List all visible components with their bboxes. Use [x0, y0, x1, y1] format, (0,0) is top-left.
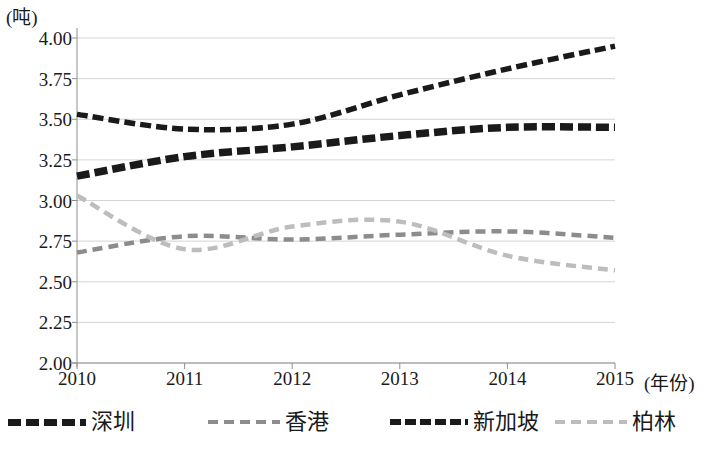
legend-item-1[interactable]: 深圳 — [8, 404, 135, 440]
legend-label: 深圳 — [91, 411, 135, 433]
x-tick-label: 2011 — [166, 368, 203, 390]
x-tick-label: 2013 — [381, 368, 419, 390]
series-line-2 — [77, 46, 615, 130]
legend-line-swatch — [555, 415, 627, 429]
x-axis-title: (年份) — [644, 368, 695, 395]
data-series — [77, 46, 615, 270]
series-line-3 — [77, 196, 615, 271]
legend-label: 柏林 — [632, 411, 676, 433]
x-tick-label: 2015 — [596, 368, 634, 390]
legend-label: 香港 — [285, 411, 329, 433]
legend-line-swatch — [390, 415, 468, 429]
gridlines — [77, 38, 615, 363]
x-tick-label: 2012 — [273, 368, 311, 390]
plot-area — [0, 0, 710, 466]
legend-item-2[interactable]: 香港 — [208, 404, 329, 440]
x-tick-label: 2014 — [488, 368, 526, 390]
chart-legend: 深圳香港新加坡柏林 — [0, 404, 710, 446]
series-line-0 — [77, 127, 615, 176]
legend-label: 新加坡 — [473, 411, 539, 433]
series-line-1 — [77, 231, 615, 252]
x-tick-label: 2010 — [58, 368, 96, 390]
legend-line-swatch — [208, 415, 280, 429]
legend-item-4[interactable]: 柏林 — [555, 404, 676, 440]
axis-tickmarks — [72, 38, 615, 369]
legend-line-swatch — [8, 415, 86, 429]
chart-container: (吨) 4.003.753.503.253.002.752.502.252.00… — [0, 0, 710, 466]
legend-item-3[interactable]: 新加坡 — [390, 404, 539, 440]
